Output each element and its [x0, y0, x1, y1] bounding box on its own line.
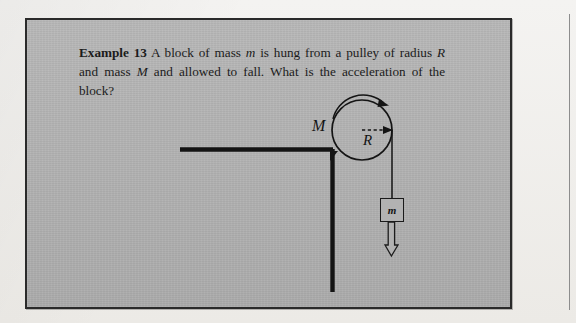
pulley-mass-label: M [312, 117, 325, 135]
figure-frame: Example 13 A block of mass m is hung fro… [25, 18, 512, 309]
rotation-arrowhead-icon [378, 99, 390, 107]
acceleration-arrow [385, 222, 398, 256]
pulley-radius-label: R [363, 132, 372, 149]
block-mass-label: m [388, 205, 397, 216]
pulley-diagram [27, 20, 510, 307]
hanging-block: m [380, 198, 404, 222]
column-rule-divider [569, 14, 570, 310]
rotation-arrow [333, 95, 384, 119]
